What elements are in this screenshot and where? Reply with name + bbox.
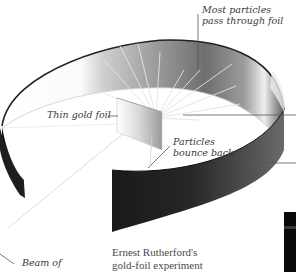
label-beam: Beam of: [22, 257, 62, 268]
gold-foil: [117, 98, 162, 150]
label-thin-gold-foil: Thin gold foil: [47, 109, 111, 120]
label-line: pass through foil: [202, 15, 283, 26]
particle-beam: [8, 128, 130, 228]
diagram-caption: Ernest Rutherford's gold-foil experiment: [112, 246, 203, 272]
label-most-particles: Most particles pass through foil: [202, 4, 283, 26]
label-line: Most particles: [202, 4, 283, 15]
corner-photo: [284, 212, 296, 272]
caption-line: gold-foil experiment: [112, 259, 203, 272]
rutherford-diagram: Most particles pass through foil Thin go…: [0, 0, 296, 272]
label-particles-bounce: Particles bounce back: [173, 136, 234, 158]
label-line: Particles: [173, 136, 234, 147]
label-line: bounce back: [173, 147, 234, 158]
caption-line: Ernest Rutherford's: [112, 246, 203, 259]
experiment-illustration: [0, 0, 296, 272]
